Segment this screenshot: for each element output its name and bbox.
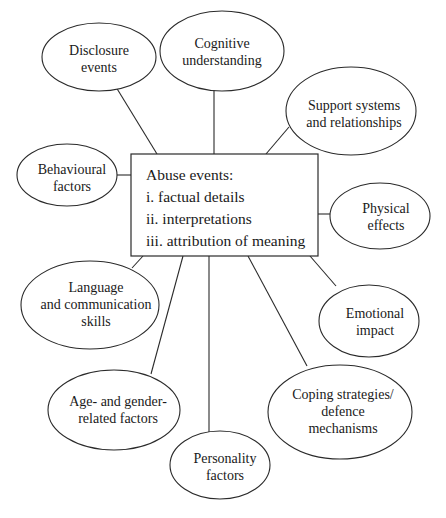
edge-disclosure	[116, 87, 157, 154]
center-box-abuse-events: Abuse events: i. factual details ii. int…	[131, 154, 318, 256]
node-behavioural-factors: Behaviouralfactors	[17, 144, 117, 206]
node-cognitive-understanding: Cognitiveunderstanding	[160, 11, 284, 91]
edge-language	[132, 256, 143, 268]
node-disclosure-events: Disclosureevents	[42, 23, 156, 91]
node-coping-strategies: Coping strategies/defencemechanisms	[268, 365, 412, 459]
edge-emotional	[310, 256, 336, 286]
node-support-systems: Support systemsand relationships	[286, 67, 416, 155]
center-item-3: iii. attribution of meaning	[146, 232, 306, 249]
center-item-1: i. factual details	[146, 188, 245, 205]
node-age-gender: Age- and gender-related factors	[48, 370, 180, 450]
edge-coping	[248, 256, 307, 366]
node-emotional-impact: Emotionalimpact	[319, 285, 419, 357]
center-item-2: ii. interpretations	[146, 210, 252, 227]
node-language-communication: Languageand communicationskills	[21, 261, 159, 349]
edge-support	[266, 127, 289, 154]
center-title: Abuse events:	[146, 166, 233, 183]
abuse-events-diagram: Disclosureevents Cognitiveunderstanding …	[0, 0, 446, 518]
node-personality-factors: Personalityfactors	[170, 431, 270, 499]
node-physical-effects: Physicaleffects	[330, 183, 430, 249]
